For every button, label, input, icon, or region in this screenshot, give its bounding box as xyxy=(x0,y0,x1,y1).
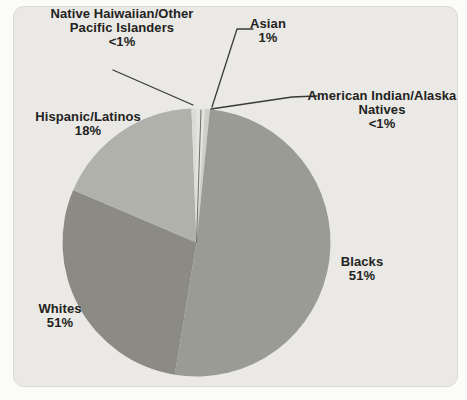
whites-label-line-2: 51% xyxy=(38,316,81,330)
page: Native Haiwaiian/OtherPacific Islanders<… xyxy=(0,0,467,400)
hispanic-label-line-1: Hispanic/Latinos xyxy=(35,110,141,124)
hispanic-label: Hispanic/Latinos18% xyxy=(35,110,141,138)
blacks-label-line-1: Blacks xyxy=(341,255,384,269)
american-indian-label-line-3: <1% xyxy=(308,117,457,131)
blacks-label-line-2: 51% xyxy=(341,269,384,283)
american-indian-label-line-2: Natives xyxy=(308,103,457,117)
asian-label-line-1: Asian xyxy=(250,17,286,31)
pie-chart xyxy=(0,0,467,400)
blacks-label: Blacks51% xyxy=(341,255,384,283)
native-haiwaiian-label: Native Haiwaiian/OtherPacific Islanders<… xyxy=(50,7,193,49)
native-haiwaiian-label-line-3: <1% xyxy=(50,35,193,49)
whites-label-line-1: Whites xyxy=(38,302,81,316)
american-indian-label: American Indian/AlaskaNatives<1% xyxy=(308,89,457,131)
asian-label-line-2: 1% xyxy=(250,31,286,45)
whites-label: Whites51% xyxy=(38,302,81,330)
american-indian-label-line-1: American Indian/Alaska xyxy=(308,89,457,103)
native-haiwaiian-leader xyxy=(113,70,193,105)
native-haiwaiian-label-line-1: Native Haiwaiian/Other xyxy=(50,7,193,21)
native-haiwaiian-label-line-2: Pacific Islanders xyxy=(50,21,193,35)
asian-label: Asian1% xyxy=(250,17,286,45)
asian-leader xyxy=(212,29,253,107)
american-indian-leader xyxy=(211,96,317,109)
hispanic-label-line-2: 18% xyxy=(35,124,141,138)
